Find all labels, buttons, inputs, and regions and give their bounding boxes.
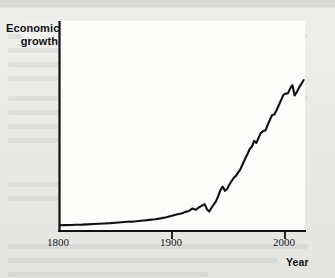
x-tick-label-1800: 1800 (47, 236, 69, 248)
economic-growth-line (60, 80, 304, 225)
x-tick-label-2000: 2000 (273, 236, 295, 248)
x-tick-label-1900: 1900 (160, 236, 182, 248)
x-axis-label: Year (286, 256, 309, 269)
y-axis-label: Economic growth (6, 22, 58, 47)
y-axis-label-line-1: Economic (6, 22, 59, 34)
chart-figure: Economic growth Year 1800 1900 2000 (0, 0, 335, 278)
y-axis-label-line-2: growth (6, 35, 58, 48)
